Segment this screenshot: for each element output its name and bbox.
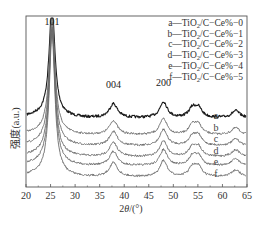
peak-label-004: 004 bbox=[106, 79, 121, 90]
x-tick-label: 30 bbox=[70, 190, 80, 201]
curve-label-f: f bbox=[214, 168, 218, 179]
curve-label-e: e bbox=[214, 156, 219, 167]
legend-item: c—TiO2/C−Ce%−2 bbox=[168, 39, 243, 50]
x-axis-title: 2θ/(°) bbox=[119, 203, 142, 215]
x-tick-label: 20 bbox=[21, 190, 31, 201]
x-tick-label: 50 bbox=[168, 190, 178, 201]
x-tick-label: 25 bbox=[46, 190, 56, 201]
x-tick-label: 55 bbox=[193, 190, 203, 201]
legend-item: a—TiO2/C−Ce%−0 bbox=[168, 18, 243, 29]
x-tick-label: 60 bbox=[217, 190, 227, 201]
legend: a—TiO2/C−Ce%−0b—TiO2/C−Ce%−1c—TiO2/C−Ce%… bbox=[168, 18, 244, 83]
curve-label-a: a bbox=[214, 110, 219, 121]
x-axis-tick-labels: 20253035404550556065 bbox=[21, 190, 252, 201]
curve-label-b: b bbox=[214, 122, 219, 133]
y-axis-title: 强度(a.u.) bbox=[9, 107, 22, 148]
xrd-chart: 20253035404550556065 2θ/(°) 强度(a.u.) 101… bbox=[0, 0, 261, 228]
x-tick-label: 35 bbox=[95, 190, 105, 201]
legend-item: b—TiO2/C−Ce%−1 bbox=[168, 29, 244, 40]
x-tick-label: 65 bbox=[242, 190, 252, 201]
legend-item: f—TiO2/C−Ce%−5 bbox=[169, 72, 243, 83]
x-tick-label: 45 bbox=[144, 190, 154, 201]
x-tick-label: 40 bbox=[119, 190, 129, 201]
peak-label-101: 101 bbox=[45, 16, 60, 27]
peak-labels: 101004200 bbox=[45, 16, 171, 90]
legend-item: d—TiO2/C−Ce%−3 bbox=[168, 50, 244, 61]
curve-labels: abcdef bbox=[214, 110, 219, 179]
curve-label-c: c bbox=[214, 133, 219, 144]
legend-item: e—TiO2/C−Ce%−4 bbox=[168, 61, 243, 72]
curve-label-d: d bbox=[214, 145, 219, 156]
